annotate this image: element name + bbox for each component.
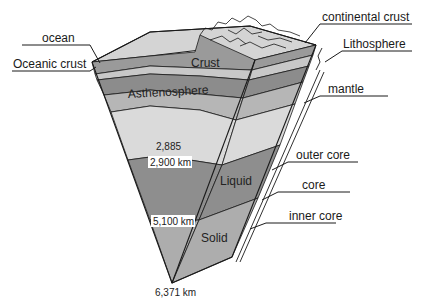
- depth-2885: 2,885: [156, 141, 181, 152]
- outer-core-leader: [272, 162, 358, 170]
- layer-label-crust: Crust: [191, 56, 220, 70]
- layer-label-solid: Solid: [201, 231, 228, 245]
- layer-label-liquid: Liquid: [220, 174, 252, 188]
- depth-6371: 6,371 km: [155, 287, 196, 298]
- inner-core-leader: [250, 223, 336, 229]
- label-mantle: mantle: [328, 82, 364, 96]
- mantle-leader: [304, 96, 388, 103]
- label-core: core: [302, 178, 326, 192]
- earth-layers-diagram: ocean Oceanic crust continental crust Li…: [0, 0, 423, 306]
- depth-5100: 5,100 km: [153, 216, 194, 227]
- label-oceanic-crust: Oceanic crust: [13, 57, 87, 71]
- depth-2900: 2,900 km: [150, 157, 191, 168]
- lithosphere-leader: [325, 51, 412, 62]
- label-outer-core: outer core: [296, 148, 350, 162]
- core-leader: [262, 192, 350, 200]
- label-continental-crust: continental crust: [322, 10, 410, 24]
- label-ocean: ocean: [42, 31, 75, 45]
- label-inner-core: inner core: [289, 209, 343, 223]
- label-lithosphere: Lithosphere: [343, 37, 406, 51]
